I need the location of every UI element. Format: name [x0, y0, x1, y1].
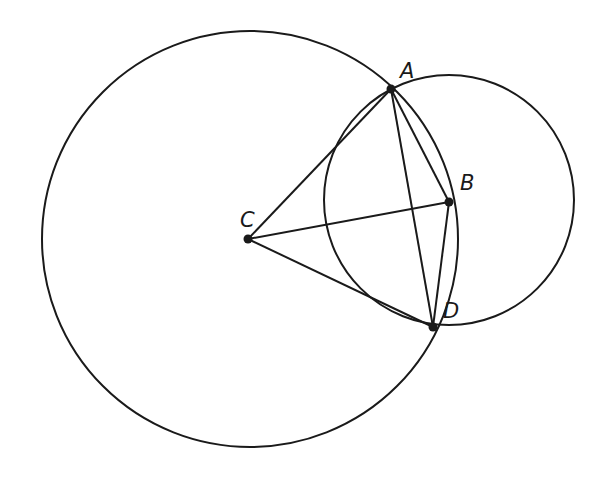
point-d — [429, 323, 438, 332]
point-label-b: B — [460, 171, 474, 195]
segment-ad — [391, 89, 433, 327]
point-label-a: A — [398, 59, 414, 83]
point-label-c: C — [240, 208, 255, 232]
point-b — [445, 198, 454, 207]
point-label-d: D — [443, 299, 459, 323]
point-c — [244, 235, 253, 244]
segment-cd — [248, 239, 433, 327]
point-a — [387, 85, 396, 94]
segment-ab — [391, 89, 449, 202]
geometry-diagram: ABCD — [0, 0, 604, 477]
